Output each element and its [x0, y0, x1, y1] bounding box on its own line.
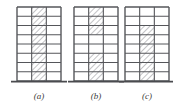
shear-wall-panel: [89, 53, 104, 81]
shear-wall-panel: [89, 7, 104, 35]
panel-caption: (a): [34, 91, 45, 101]
figure-container: (a)(b)(c): [0, 0, 173, 110]
frame-elevations-figure: (a)(b)(c): [0, 0, 173, 110]
panel-caption: (c): [142, 91, 152, 101]
panel-caption: (b): [91, 91, 102, 101]
